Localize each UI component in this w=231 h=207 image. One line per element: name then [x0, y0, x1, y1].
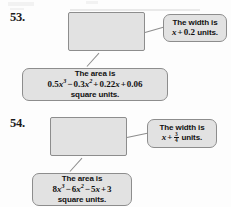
width-units: units.: [197, 28, 218, 37]
area-callout-units: square units.: [58, 195, 107, 205]
width-operator: +: [177, 27, 184, 37]
problem-53: 53. The width is x+0.2 units. The area i…: [0, 0, 231, 103]
term-4-coef: 3: [107, 184, 112, 194]
area-callout-units: square units.: [71, 90, 120, 100]
width-callout-53: The width is x+0.2 units.: [163, 14, 227, 42]
width-callout-54: The width is x+34 units.: [147, 119, 217, 148]
term-2-coef: 0.3: [73, 79, 84, 89]
problem-number: 54.: [10, 116, 25, 131]
term-3-op: −: [84, 184, 91, 194]
area-callout-53: The area is 0.5x3−0.3x2+0.22x+0.06 squar…: [22, 68, 168, 101]
width-callout-expression: x+0.2 units.: [172, 27, 218, 38]
width-units: units.: [181, 133, 202, 142]
area-callout-expression: 0.5x3−0.3x2+0.22x+0.06: [47, 79, 142, 90]
term-4-op: +: [100, 184, 107, 194]
area-callout-expression: 8x3−6x2−5x+3: [52, 184, 111, 195]
term-3-var: x: [115, 79, 120, 89]
leader-line-area-53: [87, 53, 100, 67]
width-fraction: 34: [174, 132, 179, 144]
width-callout-label: The width is: [172, 18, 217, 28]
leader-line-width-54: [127, 132, 149, 138]
leader-line-area-54: [70, 158, 83, 172]
rectangle-shape-54: [50, 117, 127, 156]
width-value: 0.2: [184, 27, 195, 37]
width-variable: x: [172, 27, 177, 37]
fraction-denominator: 4: [174, 137, 179, 143]
term-1-coef: 0.5: [47, 79, 58, 89]
term-3-coef: 0.22: [99, 79, 115, 89]
worksheet-page: 53. The width is x+0.2 units. The area i…: [0, 0, 231, 207]
term-4-coef: 0.06: [127, 79, 143, 89]
area-callout-54: The area is 8x3−6x2−5x+3 square units.: [32, 173, 132, 206]
width-callout-label: The width is: [159, 123, 204, 133]
width-callout-expression: x+34 units.: [162, 132, 202, 144]
term-2-op: −: [65, 184, 72, 194]
leader-line-width-53: [145, 27, 165, 34]
width-operator: +: [166, 132, 173, 142]
rectangle-shape-53: [68, 12, 145, 51]
term-4-op: +: [120, 79, 127, 89]
problem-number: 53.: [10, 10, 25, 25]
area-callout-label: The area is: [75, 69, 116, 79]
problem-54: 54. The width is x+34 units. The area is…: [0, 103, 231, 207]
